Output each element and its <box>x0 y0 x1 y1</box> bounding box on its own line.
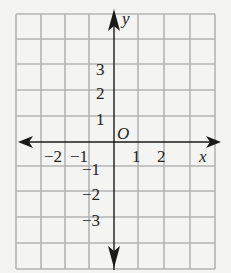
x-tick-1: 1 <box>132 147 141 166</box>
origin-label: O <box>117 124 129 143</box>
y-tick-neg2: −2 <box>82 185 100 204</box>
x-axis-label: x <box>198 147 207 166</box>
y-tick-2: 2 <box>96 84 105 103</box>
y-tick-3: 3 <box>96 60 105 79</box>
y-tick-1: 1 <box>96 110 105 129</box>
y-axis-label: y <box>120 9 130 28</box>
x-tick-2: 2 <box>157 147 166 166</box>
y-tick-neg1: −1 <box>82 160 100 179</box>
x-tick-neg2: −2 <box>44 147 62 166</box>
coordinate-grid: y x O −2 −1 1 2 3 2 1 −1 −2 −3 <box>0 0 231 273</box>
y-tick-neg3: −3 <box>82 211 100 230</box>
